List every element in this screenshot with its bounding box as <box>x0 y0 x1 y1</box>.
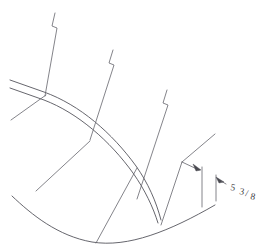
upper-curve-inner-line <box>10 88 158 223</box>
radial-line-right <box>161 162 182 225</box>
left-diagonal-line <box>11 95 46 120</box>
upper-curve-outer-line <box>10 80 161 220</box>
dimension-text-group: 5 3 / 8 <box>230 182 257 202</box>
radial-line-left <box>36 141 90 191</box>
dimension-whole-number: 5 <box>230 182 237 193</box>
dimension-denominator: 8 <box>250 191 257 202</box>
radial-line-center <box>96 168 137 243</box>
upper-curve-group <box>10 80 161 223</box>
technical-drawing-canvas: 5 3 / 8 <box>0 0 268 249</box>
dimension-fraction-separator: / <box>245 188 250 198</box>
lower-boundary-curve <box>12 196 215 243</box>
dimension-group: 5 3 / 8 <box>182 162 256 207</box>
station-line-3 <box>137 90 168 199</box>
station-line-2 <box>90 50 114 140</box>
radial-lines-group <box>36 141 182 243</box>
station-line-1 <box>45 13 57 96</box>
station-lines-group <box>45 13 215 199</box>
station-line-4 <box>182 134 215 162</box>
